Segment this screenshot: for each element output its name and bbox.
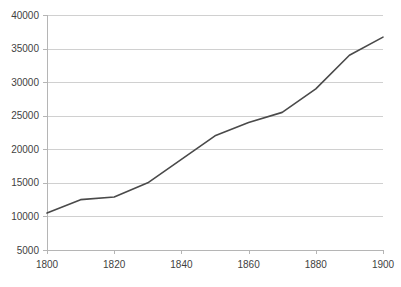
y-tick-label-6: 35000 xyxy=(11,43,39,54)
gridlines xyxy=(47,16,383,251)
y-tick-label-7: 40000 xyxy=(11,10,39,21)
series-line-1 xyxy=(47,37,383,213)
y-tick-label-0: 5000 xyxy=(17,245,40,256)
y-tick-marks xyxy=(43,16,47,251)
y-axis-tick-labels: 500010000150002000025000300003500040000 xyxy=(11,10,39,256)
x-tick-label-1: 1820 xyxy=(103,259,126,270)
chart-canvas: 500010000150002000025000300003500040000 … xyxy=(0,0,401,287)
line-chart: 500010000150002000025000300003500040000 … xyxy=(0,0,401,287)
y-tick-label-3: 20000 xyxy=(11,144,39,155)
axis-lines xyxy=(47,15,383,251)
x-tick-label-5: 1900 xyxy=(372,259,395,270)
x-axis-tick-labels: 180018201840186018801900 xyxy=(36,259,395,270)
x-tick-label-3: 1860 xyxy=(237,259,260,270)
x-tick-label-0: 1800 xyxy=(36,259,59,270)
x-tick-label-2: 1840 xyxy=(170,259,193,270)
y-tick-label-5: 30000 xyxy=(11,77,39,88)
x-tick-label-4: 1880 xyxy=(305,259,328,270)
y-tick-label-4: 25000 xyxy=(11,110,39,121)
y-tick-label-2: 15000 xyxy=(11,177,39,188)
y-tick-label-1: 10000 xyxy=(11,211,39,222)
